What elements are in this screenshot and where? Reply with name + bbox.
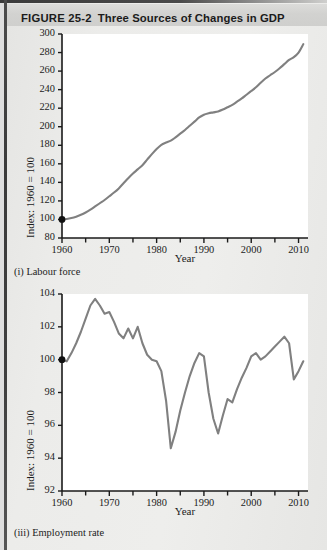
y-tick-label: 300 xyxy=(22,27,55,38)
x-tick-label: 1990 xyxy=(182,244,226,255)
y-tick-label: 140 xyxy=(22,175,55,186)
figure-title: FIGURE 25-2Three Sources of Changes in G… xyxy=(21,12,285,24)
y-tick-label: 100 xyxy=(22,353,55,364)
x-tick-label: 1990 xyxy=(182,497,226,508)
y-tick-label: 280 xyxy=(22,46,55,57)
page-top-edge xyxy=(0,0,327,3)
figure-page: FIGURE 25-2Three Sources of Changes in G… xyxy=(0,0,327,550)
chart-caption-employment-rate: (iii) Employment rate xyxy=(14,527,104,538)
x-tick-label: 1980 xyxy=(135,497,179,508)
y-tick-label: 240 xyxy=(22,83,55,94)
y-tick-label: 80 xyxy=(22,231,55,242)
y-tick-label: 96 xyxy=(22,418,55,429)
x-tick-label: 1970 xyxy=(87,497,131,508)
x-tick-label: 2010 xyxy=(277,244,321,255)
x-tick-label: 1960 xyxy=(40,497,84,508)
x-tick-label: 2000 xyxy=(229,497,273,508)
y-tick-label: 102 xyxy=(22,320,55,331)
x-tick-label: 1960 xyxy=(40,244,84,255)
y-tick-label: 92 xyxy=(22,484,55,495)
x-tick-label: 1970 xyxy=(87,244,131,255)
y-tick-label: 200 xyxy=(22,120,55,131)
figure-title-band: FIGURE 25-2Three Sources of Changes in G… xyxy=(7,4,327,26)
figure-number: FIGURE 25-2 xyxy=(21,12,92,24)
chart-caption-labour-force: (i) Labour force xyxy=(14,266,80,277)
y-tick-label: 260 xyxy=(22,64,55,75)
y-tick-label: 220 xyxy=(22,101,55,112)
y-tick-label: 104 xyxy=(22,287,55,298)
y-tick-label: 160 xyxy=(22,157,55,168)
y-tick-label: 180 xyxy=(22,138,55,149)
x-tick-label: 2000 xyxy=(229,244,273,255)
y-tick-label: 100 xyxy=(22,212,55,223)
y-tick-label: 98 xyxy=(22,386,55,397)
chart-employment-rate: Index: 1960 = 100 Year 92949698100102104… xyxy=(0,286,327,530)
y-tick-label: 94 xyxy=(22,451,55,462)
chart-labour-force: Index: 1960 = 100 Year 80100120140160180… xyxy=(0,26,327,284)
x-tick-label: 1980 xyxy=(135,244,179,255)
figure-title-text: Three Sources of Changes in GDP xyxy=(98,12,285,24)
x-tick-label: 2010 xyxy=(277,497,321,508)
y-tick-label: 120 xyxy=(22,194,55,205)
